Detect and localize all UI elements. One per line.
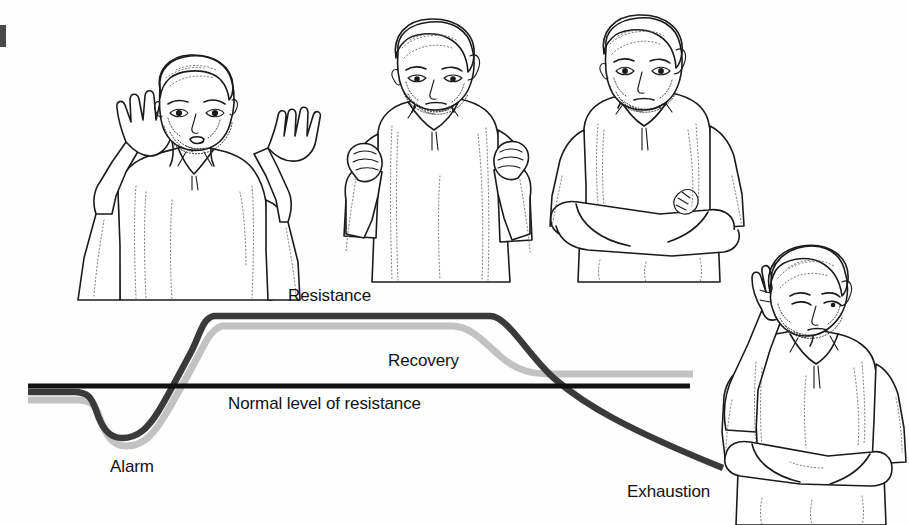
stress-curve-plot: [0, 0, 909, 525]
label-resistance: Resistance: [288, 286, 371, 305]
label-alarm: Alarm: [110, 457, 154, 476]
label-normal-level-of-resistance: Normal level of resistance: [228, 394, 421, 413]
label-recovery: Recovery: [388, 351, 459, 370]
stress-curve-figure: .ink{fill:none;stroke:#1a1a1a;stroke-wid…: [0, 0, 909, 525]
label-exhaustion: Exhaustion: [627, 482, 710, 501]
